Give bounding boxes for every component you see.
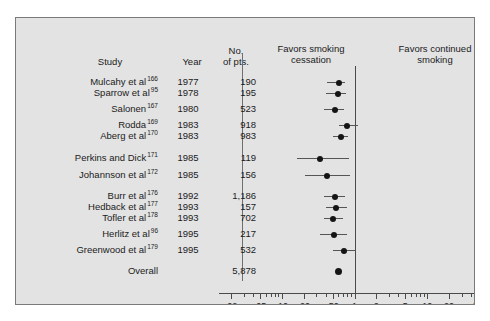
axis-tick-major <box>304 294 305 299</box>
axis-tick-minor <box>420 294 421 297</box>
axis-tick-minor <box>266 294 267 297</box>
axis-tick-major <box>449 294 450 299</box>
axis-tick-minor <box>416 294 417 297</box>
axis-tick-minor <box>389 294 390 297</box>
axis-tick-minor <box>343 294 344 297</box>
point-estimate-marker <box>332 194 338 200</box>
point-estimate-marker <box>324 173 330 179</box>
axis-tick-major <box>260 294 261 299</box>
point-estimate-marker <box>333 205 339 211</box>
forest-plot-figure: Study Year No. of pts. Favors smoking ce… <box>15 17 475 305</box>
axis-tick-major <box>333 294 334 299</box>
axis-tick-minor <box>338 294 339 297</box>
point-estimate-marker <box>317 156 323 162</box>
axis-tick-minor <box>351 294 352 297</box>
axis-tick-minor <box>326 294 327 297</box>
point-estimate-marker <box>341 248 347 254</box>
point-estimate-marker <box>332 107 338 113</box>
point-estimate-marker <box>344 123 350 129</box>
axis-tick-minor <box>275 294 276 297</box>
overall-point-estimate <box>335 268 342 275</box>
point-estimate-marker <box>335 91 341 97</box>
axis-tick-minor <box>347 294 348 297</box>
axis-tick-label: 20 <box>436 301 462 305</box>
axis-tick-major <box>355 294 356 299</box>
axis-tick-minor <box>253 294 254 297</box>
confidence-interval-line <box>297 158 350 159</box>
axis-tick-major <box>405 294 406 299</box>
null-effect-reference-line <box>355 66 356 293</box>
axis-tick-minor <box>471 294 472 297</box>
axis-tick-major <box>231 294 232 299</box>
axis-tick-major <box>427 294 428 299</box>
axis-tick-label: .02 <box>218 301 244 305</box>
axis-tick-minor <box>462 294 463 297</box>
point-estimate-marker <box>338 134 344 140</box>
axis-tick-minor <box>398 294 399 297</box>
axis-tick-label: .20 <box>291 301 317 305</box>
axis-tick-minor <box>424 294 425 297</box>
axis-tick-minor <box>316 294 317 297</box>
point-estimate-marker <box>330 216 336 222</box>
plot-area: .02.05.10.20.50125102050 <box>16 18 475 305</box>
axis-tick-minor <box>244 294 245 297</box>
axis-tick-major <box>376 294 377 299</box>
point-estimate-marker <box>336 80 342 86</box>
axis-tick-major <box>282 294 283 299</box>
axis-tick-minor <box>271 294 272 297</box>
point-estimate-marker <box>331 232 337 238</box>
axis-tick-label: 50 <box>465 301 475 305</box>
axis-tick-minor <box>278 294 279 297</box>
axis-tick-label: 2 <box>363 301 389 305</box>
axis-tick-minor <box>411 294 412 297</box>
